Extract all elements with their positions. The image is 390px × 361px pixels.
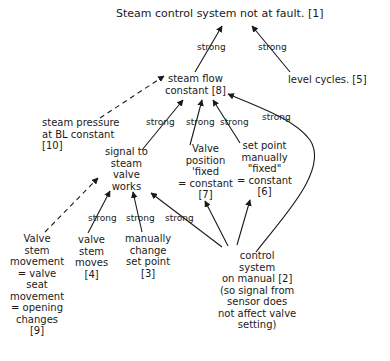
node-6-set-point-fixed: set point manually "fixed" = constant [6… <box>237 140 292 198</box>
edge-label-sv-8: strong <box>146 117 175 127</box>
node-9-valve-stem-movement: Valve stem movement = valve seat movemen… <box>10 233 64 337</box>
edge-4-to-sv <box>88 191 110 233</box>
edge-2-to-6 <box>237 200 250 245</box>
edge-10-to-8 <box>100 76 164 118</box>
node-1-steam-control-not-at-fault: Steam control system not at fault. [1] <box>116 8 324 20</box>
node-7-valve-position-fixed: Valve position 'fixed = constant [7] <box>178 143 233 201</box>
edge-label-5-1: strong <box>258 42 287 52</box>
edge-label-6-8: strong <box>220 117 249 127</box>
edge-label-4-sv: strong <box>88 213 117 223</box>
edge-2-to-7 <box>205 201 228 246</box>
node-signal-steam-valve-works: signal to steam valve works <box>105 146 148 192</box>
node-3-manually-change-set-point: manually change set point [3] <box>125 233 171 279</box>
edge-9-to-sv <box>45 178 98 232</box>
edge-label-2-sv: strong <box>165 213 194 223</box>
edge-label-2-8: strong <box>262 112 291 122</box>
node-2-control-system-on-manual: control system on manual [2] (so signal … <box>218 250 296 331</box>
node-8-steam-flow-constant: steam flow constant [8] <box>165 73 226 96</box>
edge-label-8-1: strong <box>197 42 226 52</box>
node-4-valve-stem-moves: valve stem moves [4] <box>75 234 108 280</box>
edge-3-to-sv <box>133 192 142 232</box>
edge-label-7-8: strong <box>186 117 215 127</box>
edge-label-3-sv: strong <box>126 213 155 223</box>
node-5-level-cycles: level cycles. [5] <box>288 74 367 86</box>
